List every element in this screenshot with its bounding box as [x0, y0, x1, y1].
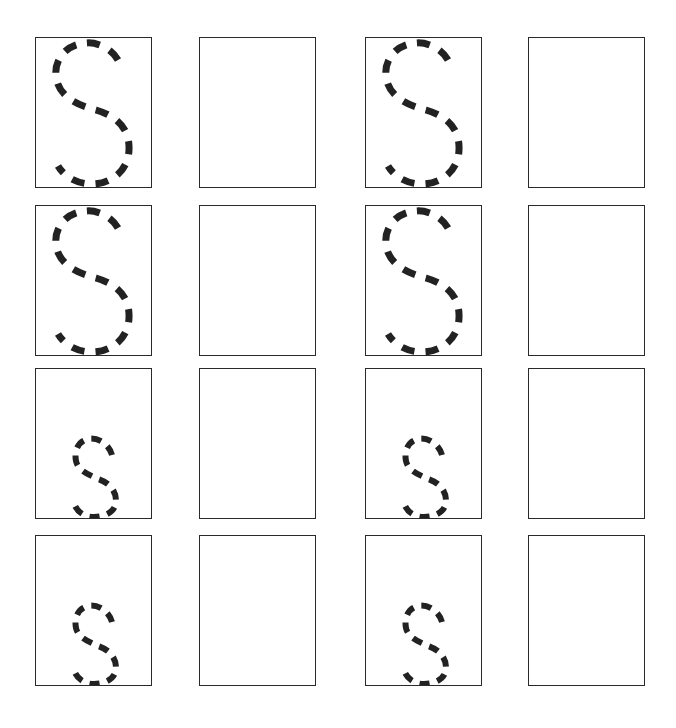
dashed-lowercase-s-glyph: [366, 536, 481, 685]
dashed-uppercase-s-glyph: [36, 38, 151, 187]
dashed-lowercase-s-glyph: [366, 369, 481, 518]
blank-practice-box: [199, 535, 316, 686]
dashed-lowercase-s-glyph: [36, 369, 151, 518]
blank-practice-box: [199, 37, 316, 188]
tracing-box: S: [35, 37, 152, 188]
tracing-box: s: [365, 368, 482, 519]
tracing-box: S: [35, 205, 152, 356]
dashed-lowercase-s-glyph: [36, 536, 151, 685]
blank-practice-box: [528, 368, 645, 519]
dashed-uppercase-s-glyph: [36, 206, 151, 355]
dashed-uppercase-s-glyph: [366, 206, 481, 355]
blank-practice-box: [528, 205, 645, 356]
tracing-box: S: [365, 37, 482, 188]
tracing-box: s: [35, 535, 152, 686]
blank-practice-box: [528, 37, 645, 188]
blank-practice-box: [199, 205, 316, 356]
tracing-box: s: [35, 368, 152, 519]
blank-practice-box: [528, 535, 645, 686]
tracing-box: s: [365, 535, 482, 686]
tracing-box: S: [365, 205, 482, 356]
dashed-uppercase-s-glyph: [366, 38, 481, 187]
blank-practice-box: [199, 368, 316, 519]
